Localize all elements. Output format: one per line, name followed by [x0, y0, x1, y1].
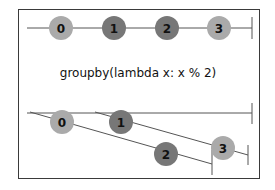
marble-2: 2 [154, 142, 178, 166]
marble-3: 3 [211, 136, 235, 160]
svg-text:1: 1 [117, 116, 125, 130]
svg-text:1: 1 [110, 22, 118, 36]
input-stream: 0 1 2 3 [27, 16, 252, 40]
operator-label: groupby(lambda x: x % 2) [60, 66, 216, 80]
svg-text:3: 3 [219, 142, 227, 156]
svg-text:0: 0 [57, 22, 65, 36]
marble-diagram: 0 1 2 3 groupby(lambda x: x % 2) 0 2 [0, 0, 275, 190]
svg-text:2: 2 [163, 22, 171, 36]
svg-text:2: 2 [162, 148, 170, 162]
svg-text:0: 0 [58, 116, 66, 130]
marble-3: 3 [207, 16, 231, 40]
marble-1: 1 [109, 110, 133, 134]
marble-2: 2 [155, 16, 179, 40]
svg-text:3: 3 [215, 22, 223, 36]
marble-1: 1 [102, 16, 126, 40]
marble-0: 0 [50, 110, 74, 134]
marble-0: 0 [49, 16, 73, 40]
